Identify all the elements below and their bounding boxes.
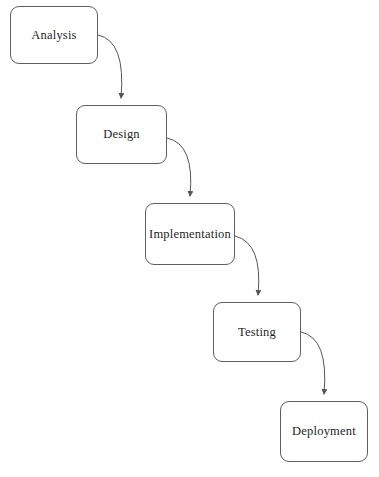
node-deployment-label: Deployment <box>292 424 356 439</box>
node-deployment: Deployment <box>280 401 368 462</box>
node-testing: Testing <box>213 302 301 362</box>
node-analysis: Analysis <box>10 6 98 64</box>
arrow-testing-to-deployment <box>301 332 325 394</box>
node-design: Design <box>76 105 167 164</box>
arrow-design-to-implementation <box>167 138 191 196</box>
node-design-label: Design <box>103 127 140 142</box>
node-analysis-label: Analysis <box>31 28 76 43</box>
waterfall-flowchart: Analysis Design Implementation Testing D… <box>0 0 379 477</box>
node-testing-label: Testing <box>238 325 276 340</box>
arrow-analysis-to-design <box>98 35 122 98</box>
arrow-implementation-to-testing <box>235 236 259 295</box>
node-implementation: Implementation <box>145 203 235 265</box>
node-implementation-label: Implementation <box>149 227 231 242</box>
